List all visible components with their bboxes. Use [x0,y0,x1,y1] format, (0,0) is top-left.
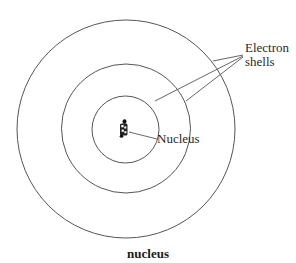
electron-shells-label-line2: shells [245,55,275,69]
electron-shells-label-line1: Electron [245,41,289,55]
diagram-caption: nucleus [0,246,296,262]
electron-shells-leader-lines [155,55,243,101]
nucleus-icon [120,119,128,137]
nucleus-label: Nucleus [157,132,200,146]
nucleus-leader-line [129,132,157,139]
